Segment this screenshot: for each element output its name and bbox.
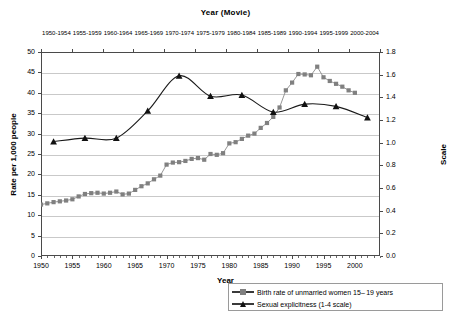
x-tick-minor [185,256,186,258]
data-point-square [321,75,325,79]
y-tick-label: 25 [9,150,35,157]
data-point-square [58,199,62,203]
data-point-square [277,105,281,109]
data-point-square [171,160,175,164]
data-point-square [83,192,87,196]
y2-tick-mark [380,97,383,98]
x-tick-minor [148,256,149,258]
x-tick-minor [280,256,281,258]
y2-tick-mark [380,165,383,166]
data-point-square [45,201,49,205]
triangle-marker-icon [232,299,254,309]
series-line [54,76,368,142]
data-point-square [315,65,319,69]
x-tick-minor [267,256,268,258]
data-point-square [290,81,294,85]
y2-tick-label: 1.2 [386,116,412,123]
y-axis-right-title: Scale [439,90,448,220]
x-tick-minor [317,256,318,258]
data-point-square [353,91,357,95]
y2-tick-mark [380,143,383,144]
x-tick-mark [41,256,42,259]
data-point-square [127,191,131,195]
x-tick-minor [330,256,331,258]
x-tick-mark [324,256,325,259]
data-point-square [252,132,256,136]
x-tick-minor [192,256,193,258]
y2-tick-label: 0.0 [386,252,412,259]
y-tick-label: 15 [9,191,35,198]
x-tick-minor [305,256,306,258]
data-point-square [114,189,118,193]
data-point-square [177,160,181,164]
square-marker-icon [232,287,254,297]
data-point-square [284,88,288,92]
data-point-square [334,82,338,86]
data-point-square [133,188,137,192]
y-tick-label: 10 [9,211,35,218]
x-tick-minor [298,256,299,258]
y-tick-label: 50 [9,48,35,55]
data-point-square [221,151,225,155]
data-point-square [246,134,250,138]
x-tick-label: 2000 [335,262,375,269]
x-tick-mark [292,256,293,259]
x-tick-minor [79,256,80,258]
y2-tick-label: 0.8 [386,161,412,168]
data-point-square [227,141,231,145]
y-tick-label: 5 [9,232,35,239]
data-point-square [303,72,307,76]
x-tick-minor [236,256,237,258]
data-point-square [234,140,238,144]
x-tick-minor [248,256,249,258]
data-point-triangle [207,93,214,99]
y-tick-label: 20 [9,170,35,177]
data-point-square [64,198,68,202]
x-tick-minor [367,256,368,258]
data-point-square [139,184,143,188]
data-point-square [102,191,106,195]
y2-tick-mark [380,75,383,76]
data-point-square [259,126,263,130]
data-point-square [215,153,219,157]
chart-title: Year (Movie) [0,8,451,17]
x-tick-minor [98,256,99,258]
x-tick-minor [160,256,161,258]
x-tick-minor [173,256,174,258]
x-tick-minor [349,256,350,258]
y2-tick-label: 0.2 [386,229,412,236]
data-point-square [265,121,269,125]
data-point-square [164,163,168,167]
y2-tick-label: 1.8 [386,48,412,55]
data-point-square [152,177,156,181]
data-point-square [41,202,43,206]
data-point-square [340,85,344,89]
x-tick-minor [311,256,312,258]
y2-tick-label: 0.4 [386,207,412,214]
data-point-square [77,194,81,198]
y2-tick-mark [380,120,383,121]
y-tick-label: 45 [9,68,35,75]
data-point-square [108,191,112,195]
top-axis-tick-label: 2000-2004 [343,30,387,36]
x-tick-minor [60,256,61,258]
x-tick-minor [342,256,343,258]
x-tick-minor [223,256,224,258]
x-tick-minor [336,256,337,258]
x-tick-minor [141,256,142,258]
x-tick-mark [72,256,73,259]
data-point-square [202,158,206,162]
data-point-square [158,174,162,178]
y2-tick-label: 1.0 [386,139,412,146]
x-tick-minor [179,256,180,258]
legend: Birth rate of unmarried women 15– 19 yea… [228,283,443,311]
legend-item-label: Birth rate of unmarried women 15– 19 yea… [254,289,393,296]
y-tick-label: 35 [9,109,35,116]
series-plot [41,52,380,256]
x-tick-minor [374,256,375,258]
x-tick-minor [242,256,243,258]
data-point-square [271,115,275,119]
x-tick-minor [204,256,205,258]
data-point-square [296,72,300,76]
x-tick-mark [104,256,105,259]
